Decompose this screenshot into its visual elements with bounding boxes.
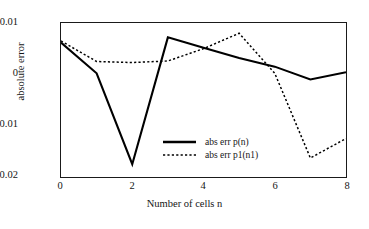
chart-legend: abs err p(n) abs err p1(n1): [163, 135, 258, 161]
legend-entry-1: abs err p1(n1): [163, 148, 258, 161]
y-tick-label-3: -0.02: [0, 170, 18, 181]
x-tick-label-0: 0: [45, 181, 75, 192]
x-axis-title: Number of cells n: [0, 198, 369, 209]
x-tick-label-3: 6: [260, 181, 290, 192]
y-tick-label-1: 0: [0, 68, 18, 79]
legend-swatch-dotted-icon: [163, 150, 196, 160]
chart-figure: absolute error 0.01 0 -0.01 -0.02 0 2 4 …: [0, 0, 369, 229]
x-tick-label-4: 8: [332, 181, 362, 192]
x-tick-label-2: 4: [188, 181, 218, 192]
legend-entry-0: abs err p(n): [163, 135, 258, 148]
legend-label-0: abs err p(n): [205, 137, 249, 147]
y-tick-label-2: -0.01: [0, 119, 18, 130]
legend-swatch-solid-icon: [163, 137, 196, 147]
x-tick-label-1: 2: [117, 181, 147, 192]
legend-label-1: abs err p1(n1): [205, 150, 258, 160]
y-tick-label-0: 0.01: [0, 17, 18, 28]
